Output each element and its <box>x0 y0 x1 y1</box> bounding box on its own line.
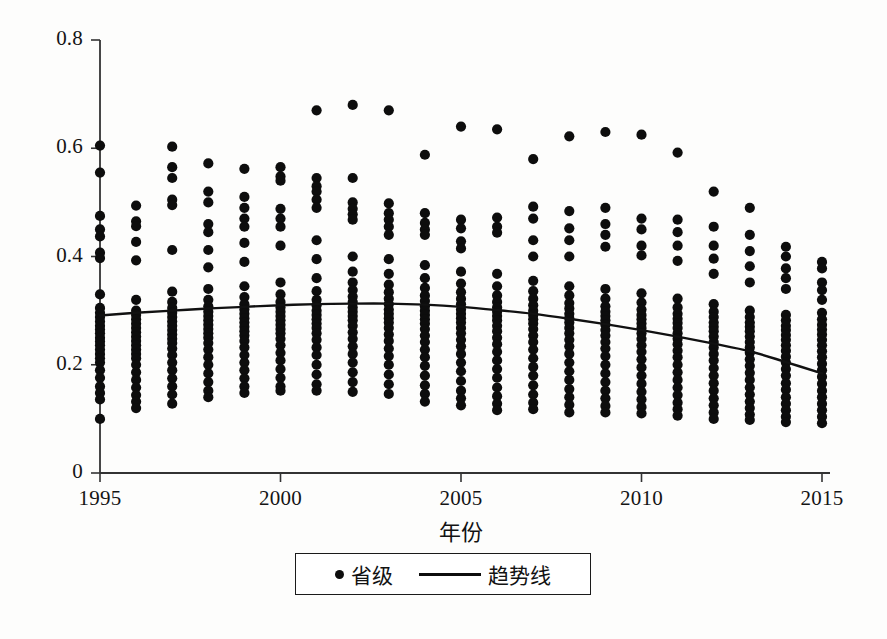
data-point <box>384 389 394 399</box>
data-point <box>167 162 177 172</box>
data-point <box>167 200 177 210</box>
data-point <box>781 263 791 273</box>
legend-dot-marker-icon <box>335 570 344 579</box>
data-point <box>636 214 646 224</box>
data-point <box>781 417 791 427</box>
data-point <box>239 203 249 213</box>
data-point <box>456 267 466 277</box>
data-point <box>239 238 249 248</box>
data-point <box>420 230 430 240</box>
legend-entry-trendline: 趋势线 <box>419 559 551 589</box>
data-point <box>709 186 719 196</box>
data-point <box>636 224 646 234</box>
data-point <box>781 273 791 283</box>
data-point <box>673 227 683 237</box>
data-point <box>348 100 358 110</box>
data-point <box>275 204 285 214</box>
data-point <box>420 370 430 380</box>
data-point <box>492 281 502 291</box>
chart-legend: 省级 趋势线 <box>295 553 591 595</box>
data-point <box>312 386 322 396</box>
data-point <box>312 203 322 213</box>
data-point <box>384 198 394 208</box>
data-point <box>600 127 610 137</box>
data-point <box>348 267 358 277</box>
data-point <box>564 223 574 233</box>
data-point <box>600 407 610 417</box>
data-point <box>564 206 574 216</box>
data-point <box>600 284 610 294</box>
data-point <box>564 251 574 261</box>
data-point <box>384 379 394 389</box>
data-point <box>564 235 574 245</box>
data-point <box>636 288 646 298</box>
data-point <box>600 242 610 252</box>
data-point <box>312 273 322 283</box>
data-point <box>636 408 646 418</box>
data-point <box>131 237 141 247</box>
data-point <box>167 287 177 297</box>
data-point <box>817 295 827 305</box>
data-point <box>709 269 719 279</box>
data-point <box>492 228 502 238</box>
data-point <box>528 154 538 164</box>
data-point <box>420 273 430 283</box>
data-point <box>673 215 683 225</box>
data-point <box>312 254 322 264</box>
data-point <box>203 197 213 207</box>
data-point <box>203 262 213 272</box>
chart-figure: 00.20.40.60.8 19952000200520102015 年份 省级… <box>0 0 887 639</box>
data-point <box>384 230 394 240</box>
data-point <box>167 399 177 409</box>
data-point <box>348 367 358 377</box>
data-point <box>528 251 538 261</box>
data-point <box>203 158 213 168</box>
data-point <box>636 241 646 251</box>
data-point <box>709 241 719 251</box>
data-point <box>384 269 394 279</box>
data-point <box>131 201 141 211</box>
data-point <box>203 186 213 196</box>
x-tick-label: 1995 <box>55 486 145 511</box>
data-point <box>239 164 249 174</box>
data-point <box>528 214 538 224</box>
data-point <box>456 243 466 253</box>
data-point <box>456 366 466 376</box>
data-point <box>636 130 646 140</box>
x-axis-title: 年份 <box>361 514 561 546</box>
data-point <box>203 227 213 237</box>
x-axis-ticks <box>100 473 822 482</box>
y-tick-label: 0.4 <box>0 243 83 268</box>
data-point <box>745 277 755 287</box>
data-point <box>564 375 574 385</box>
data-point <box>95 414 105 424</box>
data-point <box>131 295 141 305</box>
data-point <box>131 221 141 231</box>
data-point <box>275 277 285 287</box>
data-point <box>275 176 285 186</box>
data-point <box>456 122 466 132</box>
data-point <box>528 380 538 390</box>
x-tick-label: 2015 <box>777 486 867 511</box>
data-point <box>709 222 719 232</box>
data-point <box>420 361 430 371</box>
data-point <box>456 400 466 410</box>
data-point <box>239 281 249 291</box>
data-point <box>456 223 466 233</box>
y-tick-label: 0.2 <box>0 351 83 376</box>
data-point <box>348 251 358 261</box>
data-point <box>420 208 430 218</box>
x-tick-label: 2010 <box>597 486 687 511</box>
data-point <box>420 396 430 406</box>
data-point <box>131 255 141 265</box>
data-point <box>348 377 358 387</box>
legend-line-marker-icon <box>419 573 481 576</box>
data-point <box>203 284 213 294</box>
data-point <box>492 212 502 222</box>
data-point <box>275 241 285 251</box>
legend-label-trendline: 趋势线 <box>488 559 551 589</box>
legend-label-provincial: 省级 <box>351 559 393 589</box>
data-point <box>781 242 791 252</box>
data-point <box>348 215 358 225</box>
data-point <box>167 142 177 152</box>
